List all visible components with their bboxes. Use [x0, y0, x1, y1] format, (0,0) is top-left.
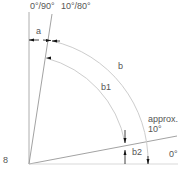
label-approx: approx. [148, 115, 178, 124]
diagram-lines [0, 0, 187, 183]
label-10-80: 10°/80° [61, 2, 91, 11]
label-b1: b1 [101, 83, 111, 92]
label-a: a [36, 27, 41, 36]
angle-diagram: 0°/90° 10°/80° a b b1 b2 approx. 10° 0° … [0, 0, 187, 183]
label-approx-10: 10° [148, 125, 162, 134]
label-b: b [118, 62, 123, 71]
label-0: 0° [169, 150, 178, 159]
figure-number: 8 [3, 156, 8, 165]
label-0-90: 0°/90° [30, 2, 55, 11]
label-b2: b2 [132, 148, 142, 157]
